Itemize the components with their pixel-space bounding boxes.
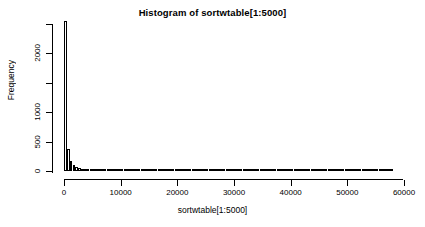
y-axis-tick xyxy=(46,24,52,25)
histogram-bars xyxy=(64,18,404,171)
y-axis-line xyxy=(52,24,53,173)
x-axis-tick-label: 40000 xyxy=(280,188,302,197)
x-axis-tick xyxy=(177,180,178,186)
y-axis-tick-label-text: 2000 xyxy=(34,43,42,64)
y-axis-tick xyxy=(46,83,52,84)
x-axis-tick xyxy=(291,180,292,186)
y-axis-tick xyxy=(46,53,52,54)
x-axis-tick-label: 50000 xyxy=(336,188,358,197)
y-axis-tick-label-text: 1000 xyxy=(34,102,42,123)
y-axis-title: Frequency xyxy=(6,60,16,100)
plot-panel xyxy=(64,18,404,171)
x-axis-tick-label: 10000 xyxy=(110,188,132,197)
x-axis-tick xyxy=(64,180,65,186)
x-axis-tick-label: 60000 xyxy=(393,188,415,197)
y-axis-tick xyxy=(46,171,52,172)
x-axis-tick-label: 30000 xyxy=(223,188,245,197)
x-axis-tick xyxy=(347,180,348,186)
x-axis-tick-label: 20000 xyxy=(166,188,188,197)
chart-title: Histogram of sortwtable[1:5000] xyxy=(0,7,425,18)
y-axis-tick-label-text: 500 xyxy=(34,134,42,150)
x-axis-tick xyxy=(121,180,122,186)
x-axis-title: sortwtable[1:5000] xyxy=(0,205,425,215)
y-axis-tick xyxy=(46,142,52,143)
histogram-plot: Histogram of sortwtable[1:5000] 05001000… xyxy=(0,0,425,227)
histogram-bar xyxy=(390,169,393,171)
x-axis-tick xyxy=(234,180,235,186)
y-axis-tick xyxy=(46,112,52,113)
x-axis-tick-label: 0 xyxy=(62,188,66,197)
x-axis-tick xyxy=(404,180,405,186)
y-axis-tick-label-text: 0 xyxy=(34,168,42,173)
